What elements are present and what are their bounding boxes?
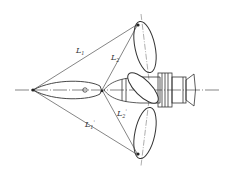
label-L2: L2 <box>110 53 120 63</box>
lower-tip-point <box>136 152 139 155</box>
lower-ellipse-lobe <box>130 100 160 166</box>
label-L2-prime: L2' <box>116 108 127 119</box>
label-L1: L1 <box>75 46 85 56</box>
label-L1-prime: L1' <box>84 119 95 130</box>
left-apex-point <box>31 88 34 91</box>
upper-ellipse-lobe <box>130 14 160 80</box>
upper-tip-point <box>136 23 139 26</box>
ray-L2-prime <box>102 90 138 155</box>
diagram-canvas: L1 L2 L1' L2' <box>0 0 231 180</box>
center-point <box>101 90 104 93</box>
